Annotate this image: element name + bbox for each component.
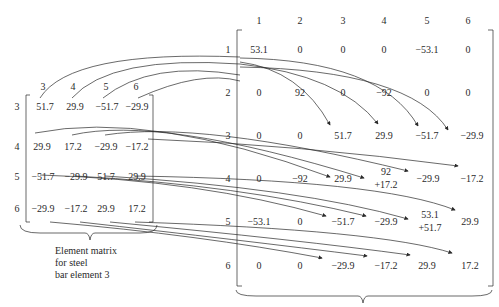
cell-bottom: +51.7	[418, 223, 441, 233]
cell: 17.2	[64, 142, 82, 152]
cell: 29.9	[128, 172, 146, 182]
cell-top: 92	[381, 167, 391, 177]
cell: 0	[298, 131, 303, 141]
row-header: 4	[15, 142, 20, 152]
col-header: 4	[382, 16, 387, 26]
cell: 29.9	[334, 174, 352, 184]
cell: −29.9	[374, 217, 397, 227]
cell: −17.2	[374, 261, 397, 271]
col-header: 4	[71, 82, 76, 92]
cell: −29.9	[31, 204, 54, 214]
cell: 0	[298, 45, 303, 55]
cell: 0	[341, 88, 346, 98]
cell: 0	[298, 217, 303, 227]
cell: 51.7	[334, 131, 352, 141]
cell: 51.7	[97, 172, 115, 182]
col-header: 5	[104, 82, 109, 92]
cell: 17.2	[128, 204, 146, 214]
cell: 29.9	[66, 102, 84, 112]
col-header: 5	[425, 16, 430, 26]
col-header: 3	[41, 82, 46, 92]
cell: 0	[298, 261, 303, 271]
cell: 29.9	[461, 217, 479, 227]
cell: 0	[257, 88, 262, 98]
cell: −17.2	[64, 204, 87, 214]
cell: 0	[257, 131, 262, 141]
cell: 51.7	[36, 102, 54, 112]
row-header: 2	[226, 88, 231, 98]
cell: −29.9	[64, 172, 87, 182]
cell: −92	[376, 88, 392, 98]
row-header: 6	[15, 204, 20, 214]
cell: −29.9	[331, 261, 354, 271]
row-header: 4	[226, 174, 231, 184]
cell: 0	[466, 45, 471, 55]
cell: −29.9	[94, 142, 117, 152]
col-header: 6	[134, 82, 139, 92]
col-header: 1	[257, 16, 262, 26]
cell: −53.1	[247, 217, 270, 227]
cell: 29.9	[97, 204, 115, 214]
col-header: 2	[298, 16, 303, 26]
row-header: 3	[15, 102, 20, 112]
row-header: 5	[15, 172, 20, 182]
cell: −51.7	[331, 217, 354, 227]
col-header: 6	[466, 16, 471, 26]
cell: 0	[382, 45, 387, 55]
cell-top: 53.1	[421, 210, 439, 220]
row-header: 1	[226, 45, 231, 55]
cell: −51.7	[95, 102, 118, 112]
row-header: 3	[226, 131, 231, 141]
cell: −53.1	[415, 45, 438, 55]
cell: −51.7	[31, 172, 54, 182]
cell: −17.2	[125, 142, 148, 152]
cell: 29.9	[33, 142, 51, 152]
cell: 0	[341, 45, 346, 55]
cell: 0	[257, 261, 262, 271]
cell: 17.2	[461, 261, 479, 271]
element-matrix-caption: Element matrix for steel bar element 3	[55, 245, 117, 281]
cell: 29.9	[418, 261, 436, 271]
cell: −92	[292, 174, 308, 184]
cell: −17.2	[460, 174, 483, 184]
cell: −29.9	[125, 102, 148, 112]
cell: 29.9	[375, 131, 393, 141]
cell: −51.7	[415, 131, 438, 141]
caption-line: Element matrix	[55, 245, 117, 257]
caption-line: for steel	[55, 257, 117, 269]
cell: 92	[295, 88, 305, 98]
cell: 0	[425, 88, 430, 98]
cell: 0	[257, 174, 262, 184]
col-header: 3	[341, 16, 346, 26]
caption-line: bar element 3	[55, 269, 117, 281]
cell-bottom: +17.2	[374, 180, 397, 190]
cell: 53.1	[250, 45, 268, 55]
cell: −29.9	[416, 174, 439, 184]
row-header: 6	[226, 261, 231, 271]
cell: −29.9	[460, 131, 483, 141]
cell: 0	[466, 88, 471, 98]
row-header: 5	[226, 217, 231, 227]
